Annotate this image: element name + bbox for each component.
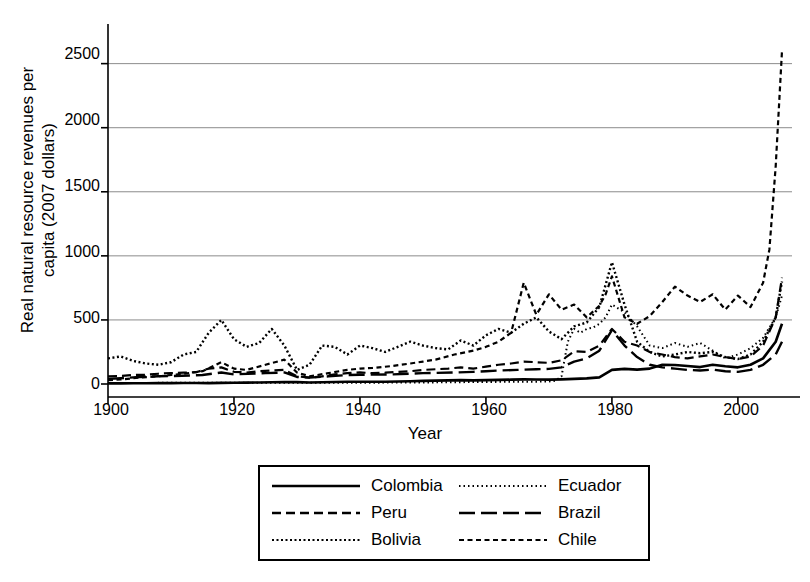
legend-item-colombia: Colombia xyxy=(270,473,451,500)
legend-item-ecuador: Ecuador xyxy=(457,473,638,500)
legend-swatch-peru xyxy=(270,506,362,520)
legend-swatch-brazil xyxy=(457,506,549,520)
chart-legend: Colombia Ecuador Peru Brazil Bolivia Chi… xyxy=(258,465,650,561)
legend-label-peru: Peru xyxy=(371,503,407,523)
x-axis-label-text: Year xyxy=(408,424,442,443)
legend-label-ecuador: Ecuador xyxy=(558,476,621,496)
legend-item-chile: Chile xyxy=(457,526,638,553)
legend-label-chile: Chile xyxy=(558,530,597,550)
series-line-bolivia xyxy=(108,262,782,370)
legend-swatch-ecuador xyxy=(457,479,549,493)
x-axis-label: Year xyxy=(0,424,810,444)
legend-label-brazil: Brazil xyxy=(558,503,601,523)
legend-swatch-chile xyxy=(457,533,549,547)
series-line-chile xyxy=(108,51,782,380)
legend-item-brazil: Brazil xyxy=(457,500,638,527)
plot-area xyxy=(0,0,810,420)
legend-item-peru: Peru xyxy=(270,500,451,527)
legend-swatch-bolivia xyxy=(270,533,362,547)
series-line-peru xyxy=(108,278,782,378)
chart-figure: Real natural resource revenues per capit… xyxy=(0,0,810,582)
legend-swatch-colombia xyxy=(270,479,362,493)
legend-label-colombia: Colombia xyxy=(371,476,443,496)
legend-item-bolivia: Bolivia xyxy=(270,526,451,553)
legend-label-bolivia: Bolivia xyxy=(371,530,421,550)
